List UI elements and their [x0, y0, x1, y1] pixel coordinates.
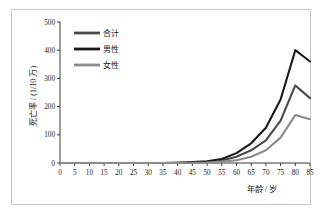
x-tick-label: 25: [130, 169, 138, 177]
data-series-group: [60, 50, 310, 163]
series-line-2: [60, 50, 310, 163]
legend-label-1: 合计: [103, 28, 119, 38]
x-tick-label: 80: [292, 169, 300, 177]
x-tick-label: 15: [101, 169, 109, 177]
mortality-line-chart: 0100200300400500 05101520253035404550556…: [0, 0, 323, 217]
series-line-3: [60, 115, 310, 163]
axis-lines: [60, 22, 310, 163]
x-tick-label: 0: [58, 169, 62, 177]
x-tick-label: 50: [203, 169, 211, 177]
x-tick-label: 40: [174, 169, 182, 177]
x-tick-label: 20: [115, 169, 123, 177]
y-tick-label: 0: [51, 160, 55, 168]
legend-label-3: 女性: [103, 60, 119, 70]
series-line-1: [60, 85, 310, 163]
x-tick-label: 55: [218, 169, 226, 177]
y-tick-label: 400: [44, 47, 55, 55]
x-tick-label: 5: [73, 169, 77, 177]
x-tick-label: 65: [248, 169, 256, 177]
x-tick-label: 30: [145, 169, 153, 177]
x-axis-ticks: 0510152025303540455055606570758085: [58, 163, 314, 177]
y-axis-ticks: 0100200300400500: [44, 19, 60, 168]
chart-figure: 0100200300400500 05101520253035404550556…: [0, 0, 323, 217]
y-axis-title: 死亡率 / (1/10 万): [28, 66, 38, 127]
x-tick-label: 60: [233, 169, 241, 177]
x-tick-label: 45: [189, 169, 197, 177]
y-tick-label: 300: [44, 75, 55, 83]
legend-label-2: 男性: [103, 44, 119, 54]
x-tick-label: 85: [306, 169, 314, 177]
x-axis-title: 年龄 / 岁: [247, 184, 277, 194]
x-tick-label: 35: [159, 169, 167, 177]
chart-legend: 合计男性女性: [74, 28, 119, 70]
x-tick-label: 75: [277, 169, 285, 177]
x-tick-label: 70: [262, 169, 270, 177]
y-tick-label: 200: [44, 103, 55, 111]
y-tick-label: 500: [44, 19, 55, 27]
x-tick-label: 10: [86, 169, 94, 177]
y-tick-label: 100: [44, 131, 55, 139]
